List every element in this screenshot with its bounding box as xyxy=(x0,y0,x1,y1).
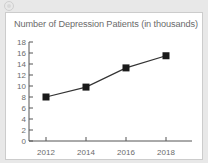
x-tick-label: 2014 xyxy=(77,148,95,157)
data-point-marker xyxy=(43,94,50,101)
x-tick-label: 2012 xyxy=(37,148,55,157)
y-tick-label: 12 xyxy=(17,71,26,80)
y-tick-label: 10 xyxy=(17,82,26,91)
y-tick-label: 16 xyxy=(17,49,26,58)
screenshot-root: Number of Depression Patients (in thousa… xyxy=(0,0,208,163)
x-tick-label: 2018 xyxy=(157,148,175,157)
circle-badge-icon xyxy=(4,1,14,11)
data-point-marker xyxy=(83,84,90,91)
y-axis-tick-labels: 0 2 4 6 8 10 12 14 16 18 xyxy=(17,38,26,146)
plot-area: 0 2 4 6 8 10 12 14 16 18 xyxy=(6,13,204,161)
y-tick-label: 8 xyxy=(22,93,27,102)
chart-card: Number of Depression Patients (in thousa… xyxy=(5,12,203,160)
line-chart-svg: 0 2 4 6 8 10 12 14 16 18 xyxy=(6,13,204,161)
data-point-marker xyxy=(163,52,170,59)
y-tick-label: 18 xyxy=(17,38,26,47)
data-line-series xyxy=(46,56,166,97)
y-tick-label: 0 xyxy=(22,137,27,146)
y-tick-label: 14 xyxy=(17,60,26,69)
data-point-marker xyxy=(123,64,130,71)
y-axis-ticks xyxy=(29,42,33,141)
y-tick-label: 4 xyxy=(22,115,27,124)
x-tick-label: 2016 xyxy=(117,148,135,157)
x-axis-tick-labels: 2012 2014 2016 2018 xyxy=(37,148,175,157)
y-tick-label: 6 xyxy=(22,104,27,113)
y-tick-label: 2 xyxy=(22,126,27,135)
x-axis-ticks xyxy=(46,137,166,141)
